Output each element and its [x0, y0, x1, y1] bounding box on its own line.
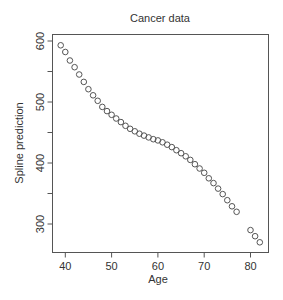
x-axis: 4050607080	[59, 253, 256, 272]
chart-title: Cancer data	[130, 12, 191, 24]
data-point	[67, 58, 73, 64]
data-point	[248, 227, 254, 233]
data-point	[225, 197, 231, 203]
x-tick-label: 80	[244, 260, 256, 272]
x-tick-label: 50	[105, 260, 117, 272]
x-tick-label: 70	[198, 260, 210, 272]
data-point	[86, 86, 92, 92]
data-point	[81, 79, 87, 85]
data-points	[58, 43, 263, 246]
data-point	[252, 233, 258, 239]
data-point	[76, 72, 82, 78]
y-tick-label: 500	[34, 93, 46, 111]
data-point	[72, 64, 78, 70]
data-point	[234, 209, 240, 215]
data-point	[63, 49, 69, 55]
data-point	[229, 204, 235, 210]
data-point	[257, 240, 263, 246]
data-point	[201, 170, 207, 176]
data-point	[192, 161, 198, 167]
data-point	[206, 176, 212, 182]
y-tick-label: 300	[34, 215, 46, 233]
y-tick-label: 600	[34, 32, 46, 50]
data-point	[100, 104, 106, 110]
y-tick-label: 400	[34, 154, 46, 172]
y-axis-label: Spline prediction	[13, 102, 25, 183]
data-point	[95, 98, 101, 104]
data-point	[215, 186, 221, 192]
x-tick-label: 60	[152, 260, 164, 272]
y-axis: 300400500600	[34, 32, 53, 233]
x-tick-label: 40	[59, 260, 71, 272]
data-point	[220, 191, 226, 197]
data-point	[197, 166, 203, 172]
scatter-chart: Cancer data 4050607080 300400500600 Age …	[0, 0, 283, 300]
data-point	[211, 180, 217, 186]
data-point	[90, 93, 96, 99]
x-axis-label: Age	[148, 273, 168, 285]
data-point	[188, 157, 194, 163]
data-point	[58, 43, 64, 49]
